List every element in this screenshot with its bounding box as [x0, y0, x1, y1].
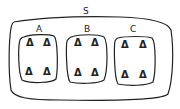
- element-triangle-icon: Δ: [26, 37, 34, 48]
- element-triangle-icon: Δ: [139, 39, 147, 50]
- element-triangle-icon: Δ: [121, 69, 129, 80]
- element-triangle-icon: Δ: [121, 39, 129, 50]
- set-diagram: [0, 0, 180, 109]
- element-triangle-icon: Δ: [91, 37, 99, 48]
- element-triangle-icon: Δ: [91, 67, 99, 78]
- set-s-boundary: [9, 17, 173, 101]
- element-triangle-icon: Δ: [139, 69, 147, 80]
- element-triangle-icon: Δ: [25, 66, 33, 77]
- element-triangle-icon: Δ: [43, 37, 51, 48]
- set-c-label: C: [130, 24, 136, 34]
- element-triangle-icon: Δ: [43, 66, 51, 77]
- set-s-label: S: [83, 6, 89, 16]
- set-b-boundary: [66, 35, 107, 84]
- element-triangle-icon: Δ: [74, 67, 82, 78]
- set-a-label: A: [36, 24, 42, 34]
- set-b-label: B: [84, 24, 90, 34]
- element-triangle-icon: Δ: [74, 37, 82, 48]
